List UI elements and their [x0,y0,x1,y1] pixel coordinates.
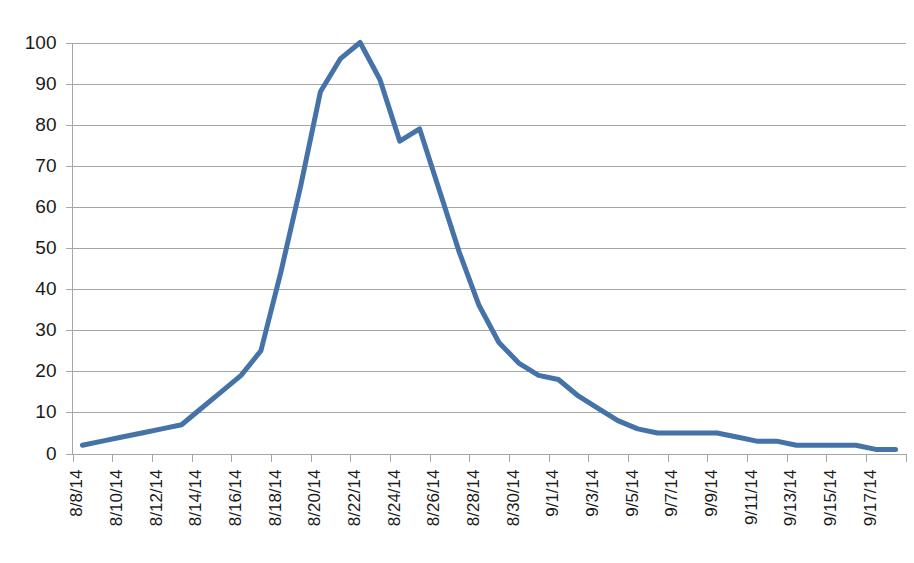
y-tick-label: 60 [35,196,56,217]
x-tick-label: 8/26/14 [424,470,443,527]
y-tick-label: 90 [35,73,56,94]
x-tick-label: 8/24/14 [385,470,404,527]
x-tick-label: 9/9/14 [702,470,721,517]
x-axis-tick-labels: 8/8/148/10/148/12/148/14/148/16/148/18/1… [67,470,879,527]
x-tick-label: 8/28/14 [464,470,483,527]
x-tick-label: 8/12/14 [147,470,166,527]
x-tick-label: 9/17/14 [861,470,880,527]
x-tick-label: 8/20/14 [305,470,324,527]
y-tick-label: 30 [35,319,56,340]
y-tick-label: 20 [35,360,56,381]
line-chart: 0102030405060708090100 8/8/148/10/148/12… [0,0,914,563]
x-tick-label: 8/18/14 [266,470,285,527]
y-tick-label: 70 [35,155,56,176]
y-tick-label: 10 [35,401,56,422]
x-tick-label: 8/10/14 [107,470,126,527]
y-tick-label: 80 [35,114,56,135]
y-tick-label: 0 [46,443,57,464]
data-series [82,43,895,450]
y-axis-tick-labels: 0102030405060708090100 [25,32,73,464]
x-tick-label: 9/7/14 [662,470,681,517]
y-tick-label: 40 [35,278,56,299]
x-tick-label: 9/11/14 [742,470,761,525]
x-tick-label: 8/14/14 [186,470,205,527]
chart-container: 0102030405060708090100 8/8/148/10/148/12… [0,0,914,563]
x-tick-label: 9/1/14 [543,470,562,517]
x-tick-label: 8/30/14 [504,470,523,527]
series-line [82,43,895,450]
x-tick-label: 8/22/14 [345,470,364,527]
y-tick-label: 50 [35,237,56,258]
x-tick-label: 8/16/14 [226,470,245,527]
x-tick-label: 9/15/14 [821,470,840,527]
x-tick-label: 8/8/14 [67,470,86,517]
x-tick-label: 9/13/14 [781,470,800,527]
gridlines [73,43,906,455]
x-tick-label: 9/5/14 [623,470,642,517]
x-tick-label: 9/3/14 [583,470,602,517]
y-tick-label: 100 [25,32,57,53]
